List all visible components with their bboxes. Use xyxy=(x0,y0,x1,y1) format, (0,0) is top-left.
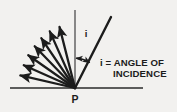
diagram-background xyxy=(0,0,177,112)
diagram-root: i P i = ANGLE OF INCIDENCE xyxy=(0,0,177,112)
origin-point-label: P xyxy=(71,93,78,105)
angle-of-incidence-diagram: i P i = ANGLE OF INCIDENCE xyxy=(0,0,177,112)
angle-symbol-label: i xyxy=(85,28,88,39)
caption-line-1: i = ANGLE OF xyxy=(100,57,164,68)
caption-line-2: INCIDENCE xyxy=(113,68,167,79)
